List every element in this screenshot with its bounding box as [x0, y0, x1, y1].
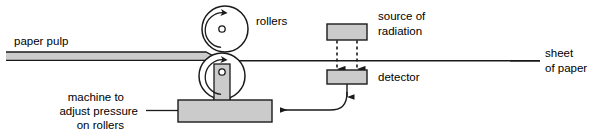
- label-source-of-radiation-line1: source of: [378, 10, 426, 22]
- diagram-canvas: paper pulp rollers source of radiation d…: [0, 0, 594, 137]
- label-detector: detector: [378, 71, 420, 83]
- label-machine-line1: machine to: [68, 91, 124, 103]
- label-machine-line3: on rollers: [77, 119, 125, 131]
- feedback-signal-path: [280, 84, 347, 110]
- lower-roller: [199, 53, 245, 104]
- label-sheet-of-paper-line2: of paper: [545, 62, 587, 74]
- label-sheet-of-paper-line1: sheet: [545, 47, 574, 59]
- label-machine-line2: adjust pressure: [59, 105, 138, 117]
- paper-mill-diagram: paper pulp rollers source of radiation d…: [0, 0, 594, 137]
- label-source-of-radiation-line2: radiation: [378, 25, 422, 37]
- paper-pulp-band: [6, 52, 221, 60]
- radiation-beams: [337, 41, 357, 70]
- source-of-radiation-box: [327, 24, 367, 40]
- upper-roller: [199, 6, 248, 52]
- label-rollers: rollers: [256, 15, 288, 27]
- machine-pressure-bar: [178, 100, 272, 122]
- detector-box: [327, 70, 367, 84]
- label-paper-pulp: paper pulp: [14, 35, 68, 47]
